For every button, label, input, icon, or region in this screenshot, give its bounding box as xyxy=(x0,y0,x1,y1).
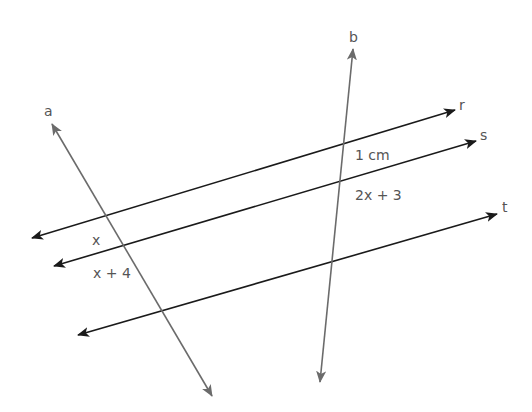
label-segment-b-rs: 1 cm xyxy=(355,148,390,162)
label-line-t: t xyxy=(502,200,508,214)
label-segment-b-st: 2x + 3 xyxy=(355,188,402,202)
lines-svg xyxy=(0,0,532,412)
label-line-r: r xyxy=(459,98,465,112)
line-b xyxy=(320,49,353,382)
label-line-s: s xyxy=(480,128,487,142)
label-segment-a-rs: x xyxy=(92,233,100,247)
line-r xyxy=(32,110,455,238)
diagram-canvas: a b r s t 1 cm 2x + 3 x x + 4 xyxy=(0,0,532,412)
label-segment-a-st: x + 4 xyxy=(93,266,131,280)
label-line-b: b xyxy=(349,30,358,44)
line-s xyxy=(54,141,476,266)
label-line-a: a xyxy=(44,104,53,118)
